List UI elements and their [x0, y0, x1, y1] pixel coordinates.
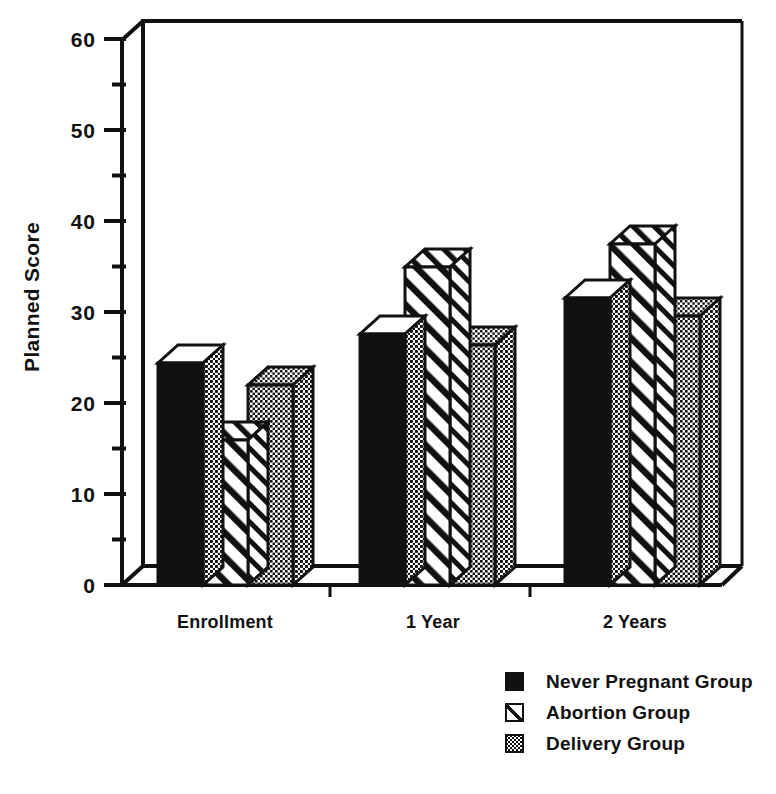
bar-2-years-never-pregnant — [565, 280, 630, 585]
legend-item-delivery: Delivery Group — [505, 730, 753, 757]
legend-item-never-pregnant: Never Pregnant Group — [505, 668, 753, 695]
plot-area — [0, 0, 776, 660]
solid-black-swatch-icon — [505, 672, 524, 691]
hatched-swatch-icon — [505, 703, 524, 722]
chart-legend: Never Pregnant Group Abortion Group Deli… — [505, 668, 753, 761]
bar-chart-figure: Planned Score 60 50 40 30 20 10 0 Enroll… — [0, 0, 776, 794]
legend-label-never-pregnant: Never Pregnant Group — [546, 671, 753, 693]
bar-group-enrollment — [158, 345, 313, 585]
bar-group-2-years — [565, 226, 720, 585]
legend-label-delivery: Delivery Group — [546, 733, 685, 755]
legend-label-abortion: Abortion Group — [546, 702, 690, 724]
bar-group-1-year — [360, 249, 515, 585]
dotted-swatch-icon — [505, 734, 524, 753]
bar-enrollment-never-pregnant — [158, 345, 223, 585]
bar-1-year-never-pregnant — [360, 316, 425, 585]
y-axis — [104, 39, 126, 585]
legend-item-abortion: Abortion Group — [505, 699, 753, 726]
